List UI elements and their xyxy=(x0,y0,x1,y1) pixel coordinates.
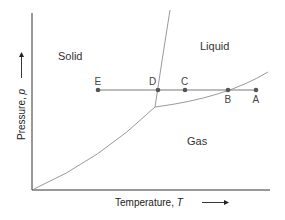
point-a-marker xyxy=(254,88,259,93)
svg-text:Pressure, p: Pressure, p xyxy=(16,88,27,140)
point-a-label: A xyxy=(253,94,260,105)
y-axis-title: Pressure, p xyxy=(16,52,27,140)
point-e-marker xyxy=(96,88,101,93)
point-b-label: B xyxy=(225,94,232,105)
y-axis-label-text: Pressure, xyxy=(16,94,27,140)
point-b-marker xyxy=(226,88,231,93)
svg-text:Temperature, T: Temperature, T xyxy=(115,197,184,208)
point-e-label: E xyxy=(95,76,102,87)
point-d-label: D xyxy=(149,76,156,87)
point-c-label: C xyxy=(181,76,188,87)
phase-diagram: Solid Liquid Gas E D C B A Pressure, p T… xyxy=(0,0,285,220)
x-axis-symbol: T xyxy=(177,197,184,208)
y-axis-arrow-icon xyxy=(19,52,24,57)
region-liquid: Liquid xyxy=(200,40,229,52)
x-axis-arrow-icon xyxy=(224,200,229,205)
point-d-marker xyxy=(156,88,161,93)
x-axis-label-text: Temperature, xyxy=(115,197,177,208)
region-solid: Solid xyxy=(58,50,82,62)
x-axis-title: Temperature, T xyxy=(115,197,229,208)
sublimation-curve xyxy=(34,107,155,189)
point-c-marker xyxy=(183,88,188,93)
region-gas: Gas xyxy=(187,135,208,147)
y-axis-symbol: p xyxy=(16,88,27,95)
fusion-curve xyxy=(155,10,170,107)
